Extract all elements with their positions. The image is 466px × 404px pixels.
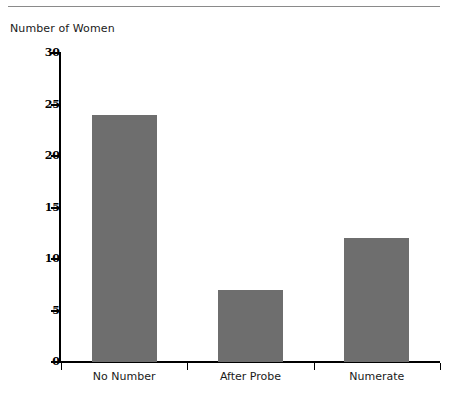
x-axis-label-no-number: No Number bbox=[61, 370, 187, 383]
bar-after-probe bbox=[218, 290, 283, 362]
bar-no-number bbox=[92, 115, 157, 362]
x-axis-tick bbox=[187, 363, 188, 370]
bar-chart-plot: 051015202530 No NumberAfter ProbeNumerat… bbox=[0, 0, 466, 404]
bar-numerate bbox=[344, 238, 409, 362]
figure-canvas: Number of Women 051015202530 No NumberAf… bbox=[0, 0, 466, 404]
y-axis-tick-label: 10 bbox=[12, 253, 60, 264]
x-axis-label-numerate: Numerate bbox=[314, 370, 440, 383]
y-axis-tick-label: 20 bbox=[12, 150, 60, 161]
y-axis-tick-label: 5 bbox=[12, 305, 60, 316]
y-axis-tick-label: 15 bbox=[12, 202, 60, 213]
x-axis-label-after-probe: After Probe bbox=[187, 370, 313, 383]
x-axis-tick bbox=[314, 363, 315, 370]
x-axis-tick bbox=[440, 363, 441, 370]
y-axis-tick-label: 25 bbox=[12, 99, 60, 110]
y-axis-tick-label: 30 bbox=[12, 47, 60, 58]
x-axis-tick bbox=[61, 363, 62, 370]
y-axis-tick-label: 0 bbox=[12, 356, 60, 367]
